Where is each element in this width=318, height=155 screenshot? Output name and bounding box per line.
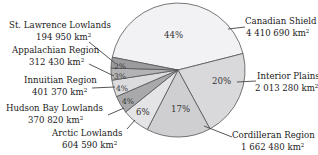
- pct-innuitian: 4%: [116, 84, 128, 93]
- pct-hudson: 4%: [122, 97, 134, 106]
- label-arctic-area: 604 590 km2: [62, 140, 117, 150]
- label-hudson-name: Hudson Bay Lowlands: [6, 103, 103, 113]
- pie-chart: 44% 20% 17% 6% 4% 4% 3% 2% St. Lawrence …: [0, 0, 318, 155]
- label-canadian-shield-area: 4 410 690 km2: [246, 28, 309, 38]
- label-canadian-shield-name: Canadian Shield: [245, 16, 317, 26]
- label-arctic-name: Arctic Lowlands: [51, 128, 122, 138]
- label-cordilleran-name: Cordilleran Region: [232, 130, 315, 140]
- label-appalachian-area: 312 430 km2: [29, 57, 84, 67]
- label-innuitian-area: 401 370 km2: [32, 87, 87, 97]
- pie-slices: [111, 3, 245, 137]
- label-appalachian-name: Appalachian Region: [11, 45, 100, 55]
- label-innuitian-name: Innuitian Region: [24, 75, 97, 85]
- pct-appalachian: 3%: [114, 72, 126, 81]
- pct-interior-plains: 20%: [212, 76, 231, 86]
- pct-canadian-shield: 44%: [164, 30, 183, 40]
- label-cordilleran-area: 1 662 480 km2: [241, 142, 304, 152]
- label-hudson-area: 370 820 km2: [28, 115, 83, 125]
- label-interior-plains-name: Interior Plains: [257, 71, 318, 81]
- label-st-lawrence-area: 194 950 km2: [36, 32, 91, 42]
- label-interior-plains-area: 2 013 280 km2: [255, 83, 318, 93]
- label-st-lawrence-name: St. Lawrence Lowlands: [9, 20, 111, 30]
- pct-st-lawrence: 2%: [114, 62, 126, 71]
- pct-cordilleran: 17%: [171, 104, 190, 114]
- pct-arctic: 6%: [136, 107, 150, 117]
